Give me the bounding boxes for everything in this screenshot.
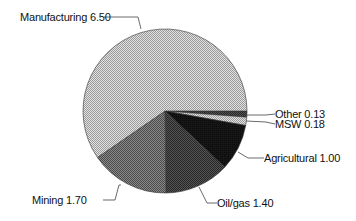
label-agricultural: Agricultural 1.00 [264,152,340,164]
leader-line-oilgas [199,187,217,203]
label-manufacturing: Manufacturing 6.50 [20,11,111,23]
leader-line-mining [103,185,121,200]
leader-line-agricultural [238,152,264,158]
label-mining: Mining 1.70 [32,194,87,206]
leader-line-msw [246,121,275,124]
leader-line-other [245,114,275,115]
label-msw: MSW 0.18 [275,118,325,130]
label-oilgas: Oil/gas 1.40 [217,197,273,209]
pie-slices [83,29,247,193]
